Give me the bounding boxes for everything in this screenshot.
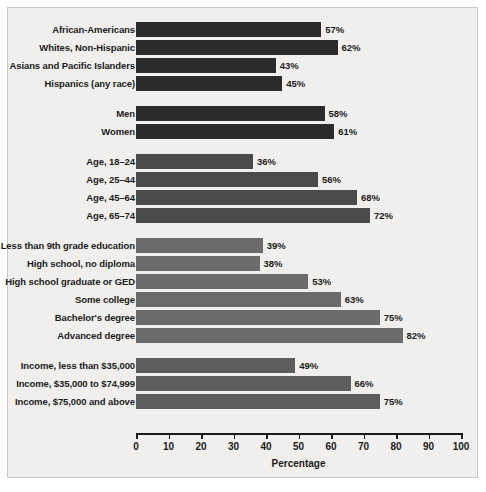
bar-category-label: Age, 45–64: [86, 190, 135, 205]
bar-category-label: Asians and Pacific Islanders: [9, 58, 135, 73]
bar-value-label: 62%: [342, 40, 361, 55]
bar-category-label: Women: [101, 124, 135, 139]
bar-value-label: 56%: [322, 172, 341, 187]
bar: [136, 310, 380, 325]
x-axis-tick: [429, 433, 431, 439]
bar: [136, 106, 325, 121]
x-axis-tick: [299, 433, 301, 439]
bar-category-label: Bachelor's degree: [55, 310, 135, 325]
x-axis-tick: [201, 433, 203, 439]
bar: [136, 208, 370, 223]
bar-row: Income, less than $35,00049%: [8, 358, 477, 373]
x-axis-tick: [234, 433, 236, 439]
bar-row: Income, $35,000 to $74,99966%: [8, 376, 477, 391]
bar-category-label: Men: [116, 106, 135, 121]
x-axis-tick-label: 20: [195, 441, 206, 452]
bar-value-label: 58%: [329, 106, 348, 121]
bar: [136, 22, 321, 37]
bar-row: Less than 9th grade education39%: [8, 238, 477, 253]
bar: [136, 328, 403, 343]
bar: [136, 238, 263, 253]
bar-row: High school graduate or GED53%: [8, 274, 477, 289]
bar-chart-plot: African-Americans57%Whites, Non-Hispanic…: [8, 8, 477, 477]
x-axis-tick-label: 90: [423, 441, 434, 452]
bar: [136, 40, 338, 55]
bar-row: Asians and Pacific Islanders43%: [8, 58, 477, 73]
bar-category-label: Age, 18–24: [86, 154, 135, 169]
bar-row: Income, $75,000 and above75%: [8, 394, 477, 409]
bar-value-label: 63%: [345, 292, 364, 307]
bar-value-label: 75%: [384, 394, 403, 409]
bar-value-label: 82%: [407, 328, 426, 343]
bar-row: Some college63%: [8, 292, 477, 307]
x-axis-title: Percentage: [136, 458, 461, 469]
bar: [136, 190, 357, 205]
bar: [136, 76, 282, 91]
bar-category-label: Whites, Non-Hispanic: [39, 40, 135, 55]
bar-category-label: African-Americans: [52, 22, 135, 37]
bar-row: Whites, Non-Hispanic62%: [8, 40, 477, 55]
bar-row: Age, 25–4456%: [8, 172, 477, 187]
bar-row: Women61%: [8, 124, 477, 139]
x-axis-tick-label: 60: [325, 441, 336, 452]
bar-row: African-Americans57%: [8, 22, 477, 37]
x-axis-tick-label: 0: [133, 441, 139, 452]
bar-value-label: 75%: [384, 310, 403, 325]
bar-row: Men58%: [8, 106, 477, 121]
bar-category-label: Less than 9th grade education: [1, 238, 135, 253]
x-axis-tick: [331, 433, 333, 439]
bar-category-label: Advanced degree: [57, 328, 135, 343]
bar: [136, 172, 318, 187]
x-axis-tick-label: 100: [453, 441, 470, 452]
bar-value-label: 68%: [361, 190, 380, 205]
chart-panel: African-Americans57%Whites, Non-Hispanic…: [7, 7, 478, 478]
bar-category-label: High school, no diploma: [27, 256, 135, 271]
bar-category-label: High school graduate or GED: [5, 274, 135, 289]
bar-category-label: Income, $35,000 to $74,999: [16, 376, 135, 391]
bar-value-label: 57%: [325, 22, 344, 37]
bar-value-label: 38%: [264, 256, 283, 271]
x-axis-tick: [266, 433, 268, 439]
x-axis-tick: [364, 433, 366, 439]
bar-category-label: Income, less than $35,000: [21, 358, 135, 373]
bar-row: Hispanics (any race)45%: [8, 76, 477, 91]
x-axis-tick-label: 40: [260, 441, 271, 452]
x-axis-tick-label: 30: [228, 441, 239, 452]
bar-category-label: Age, 65–74: [86, 208, 135, 223]
bar: [136, 58, 276, 73]
bar-category-label: Income, $75,000 and above: [15, 394, 135, 409]
bar-value-label: 39%: [267, 238, 286, 253]
bar-row: Bachelor's degree75%: [8, 310, 477, 325]
bar: [136, 274, 308, 289]
bar: [136, 154, 253, 169]
bar: [136, 376, 351, 391]
bar: [136, 256, 260, 271]
x-axis-tick: [396, 433, 398, 439]
bar-row: Age, 18–2436%: [8, 154, 477, 169]
bar-value-label: 43%: [280, 58, 299, 73]
bar-value-label: 49%: [299, 358, 318, 373]
bar: [136, 292, 341, 307]
bar-value-label: 53%: [312, 274, 331, 289]
x-axis-tick-label: 70: [358, 441, 369, 452]
bar: [136, 358, 295, 373]
x-axis-tick: [136, 433, 138, 439]
bar-row: Age, 45–6468%: [8, 190, 477, 205]
x-axis-tick: [461, 433, 463, 439]
bar-category-label: Some college: [75, 292, 135, 307]
x-axis-tick-label: 50: [293, 441, 304, 452]
bar: [136, 394, 380, 409]
x-axis-tick: [169, 433, 171, 439]
bar-value-label: 66%: [355, 376, 374, 391]
bar-row: Advanced degree82%: [8, 328, 477, 343]
bar-value-label: 45%: [286, 76, 305, 91]
bar-row: Age, 65–7472%: [8, 208, 477, 223]
bar-value-label: 61%: [338, 124, 357, 139]
bar: [136, 124, 334, 139]
bar-category-label: Age, 25–44: [86, 172, 135, 187]
x-axis-tick-label: 80: [390, 441, 401, 452]
bar-category-label: Hispanics (any race): [45, 76, 135, 91]
x-axis-tick-label: 10: [163, 441, 174, 452]
bar-row: High school, no diploma38%: [8, 256, 477, 271]
bar-value-label: 36%: [257, 154, 276, 169]
